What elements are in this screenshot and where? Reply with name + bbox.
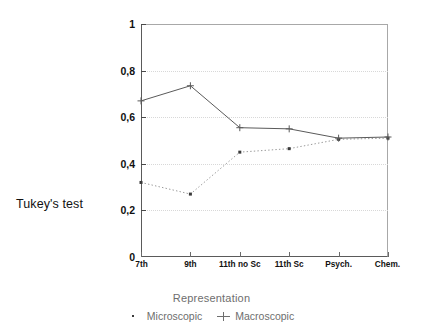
data-point-marker [238, 151, 241, 154]
series-microscopic [140, 137, 390, 196]
legend-item-macroscopic: Macroscopic [217, 310, 294, 322]
chart-figure: Tukey's test 10,80,60,40,20 7th9th11th n… [0, 0, 423, 335]
y-axis-tick-label: 0,8 [120, 65, 135, 76]
x-axis-tick-label: 11th no Sc [219, 260, 261, 268]
y-axis-label: Tukey's test [16, 197, 126, 211]
series-layer [141, 24, 388, 257]
data-point-marker [385, 134, 392, 141]
data-point-marker [189, 193, 192, 196]
legend-label-macroscopic: Macroscopic [235, 310, 294, 322]
x-axis-tick-mark [388, 252, 389, 257]
x-axis-tick-label: 9th [184, 260, 196, 268]
data-point-marker [286, 125, 293, 132]
y-axis-tick-label: 0 [129, 252, 135, 263]
y-axis-tick-label: 0,4 [120, 159, 135, 170]
x-axis-tick-label: Chem. [375, 260, 400, 268]
y-axis-tick-label: 1 [129, 19, 135, 30]
plus-marker-icon [217, 311, 230, 322]
x-axis-tick-label: Psych. [325, 260, 352, 268]
data-point-marker [288, 147, 291, 150]
series-line [141, 86, 388, 138]
y-axis-tick-label: 0,2 [120, 205, 135, 216]
chart-legend: Representation Microscopic Macroscopic [0, 292, 423, 322]
series-macroscopic [138, 82, 392, 141]
plot-area: 10,80,60,40,20 7th9th11th no Sc11th ScPs… [141, 24, 388, 257]
legend-entries: Microscopic Macroscopic [0, 310, 423, 322]
data-point-marker [138, 97, 145, 104]
y-axis-tick-label: 0,6 [120, 112, 135, 123]
x-axis-tick-label: 7th [135, 260, 147, 268]
series-line [141, 138, 388, 194]
legend-item-microscopic: Microscopic [129, 310, 202, 322]
legend-title: Representation [0, 292, 423, 304]
data-point-marker [335, 135, 342, 142]
data-point-marker [140, 181, 143, 184]
legend-label-microscopic: Microscopic [147, 310, 202, 322]
x-axis-tick-label: 11th Sc [275, 260, 304, 268]
dot-marker-icon [129, 311, 142, 322]
